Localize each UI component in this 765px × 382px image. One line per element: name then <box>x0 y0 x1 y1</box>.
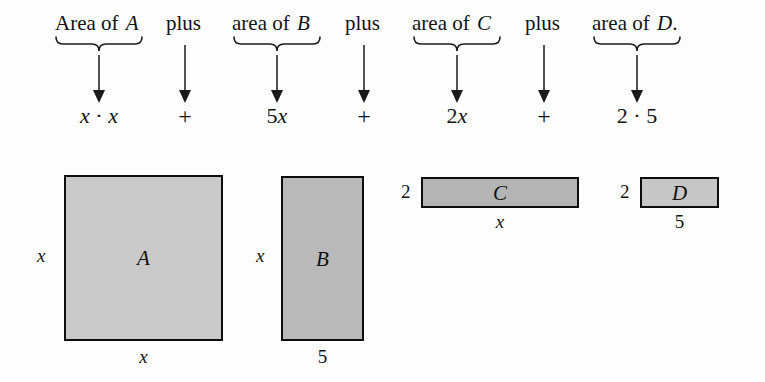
operator-plus-3: + <box>514 103 574 129</box>
operator-plus-2: + <box>334 103 394 129</box>
rect-b-bottom-dimension: 5 <box>281 346 364 368</box>
brace-c <box>414 37 500 51</box>
rect-b-left-dimension: x <box>256 245 264 267</box>
rect-c-bottom-dimension: x <box>421 211 579 233</box>
rect-a-label: A <box>66 246 221 271</box>
rect-c-left-dimension: 2 <box>401 181 411 203</box>
brace-a <box>56 37 142 51</box>
rect-c-label: C <box>423 180 577 205</box>
arrow-head-d <box>631 90 643 103</box>
term-c-variable: x <box>458 103 468 128</box>
term-a-dot: · <box>90 103 108 128</box>
term-5x: 5x <box>232 103 322 129</box>
term-b-coefficient: 5 <box>267 103 278 128</box>
rect-d-left-dimension: 2 <box>620 181 630 203</box>
brace-and-arrow-layer <box>0 0 765 165</box>
term-2-times-5: 2 · 5 <box>592 103 682 129</box>
rect-d-label: D <box>642 180 717 205</box>
arrow-head-a <box>93 90 105 103</box>
arrow-head-plus-2 <box>358 90 370 103</box>
rect-c: C <box>421 177 579 208</box>
term-b-variable: x <box>278 103 288 128</box>
rect-d: D <box>640 177 719 208</box>
term-2x: 2x <box>412 103 502 129</box>
term-c-coefficient: 2 <box>447 103 458 128</box>
term-a-factor-2: x <box>108 103 118 128</box>
term-x-times-x: x · x <box>49 103 149 129</box>
rect-b-label: B <box>283 246 362 271</box>
rect-a-bottom-dimension: x <box>64 346 223 368</box>
rect-d-bottom-dimension: 5 <box>640 211 719 233</box>
operator-plus-1: + <box>155 103 215 129</box>
figure-canvas: Area of A plus area of B plus area of C … <box>0 0 765 382</box>
arrow-head-b <box>271 90 283 103</box>
rect-a: A <box>64 175 223 341</box>
arrow-head-plus-3 <box>538 90 550 103</box>
arrow-head-c <box>451 90 463 103</box>
rect-b: B <box>281 176 364 341</box>
rect-a-left-dimension: x <box>37 245 45 267</box>
term-a-factor-1: x <box>80 103 90 128</box>
arrow-head-plus-1 <box>179 90 191 103</box>
brace-d <box>594 37 680 51</box>
brace-b <box>234 37 320 51</box>
